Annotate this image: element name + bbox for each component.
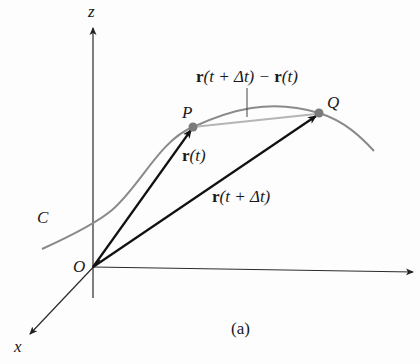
point-q-label: Q	[327, 94, 339, 111]
vector-r-t-dt-arg: (t + Δt)	[220, 187, 271, 206]
point-p-label: P	[182, 104, 192, 121]
curve-c	[42, 106, 374, 249]
difference-bold-2: r	[274, 67, 282, 86]
difference-vector	[193, 114, 316, 127]
vector-r-t-dt-bold: r	[212, 187, 220, 206]
curve-label: C	[37, 209, 48, 226]
point-p	[189, 123, 198, 132]
z-axis-label: z	[88, 3, 95, 20]
x-axis	[30, 260, 100, 334]
vector-r-t-dt	[93, 116, 316, 267]
vector-derivative-figure: z x O C P Q r(t) r(t + Δt) r(t + Δt) − r…	[0, 0, 420, 364]
vector-r-t-label: r(t)	[182, 147, 206, 164]
point-q	[315, 109, 324, 118]
origin-label: O	[73, 258, 85, 275]
difference-vector-label: r(t + Δt) − r(t)	[196, 68, 298, 85]
y-axis	[93, 267, 413, 272]
difference-bold-1: r	[196, 67, 204, 86]
figure-graphics	[0, 0, 420, 364]
vector-r-t-arg: (t)	[190, 146, 206, 165]
difference-mid: (t + Δt) −	[204, 67, 275, 86]
vector-r-t-dt-label: r(t + Δt)	[212, 188, 270, 205]
difference-arg: (t)	[282, 67, 298, 86]
vector-r-t	[93, 130, 191, 267]
figure-caption: (a)	[231, 320, 250, 337]
vector-r-t-bold: r	[182, 146, 190, 165]
x-axis-label: x	[14, 338, 22, 355]
